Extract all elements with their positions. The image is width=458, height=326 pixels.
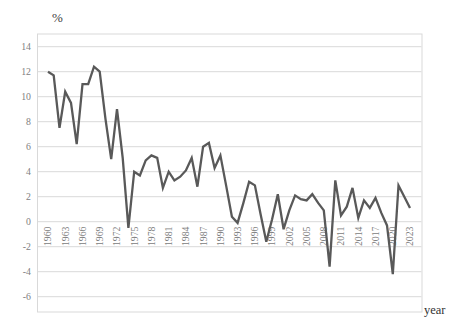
- x-axis-title: year: [424, 303, 446, 318]
- x-tick-label: 1975: [129, 226, 140, 246]
- chart-container: % 14121086420-2-4-6196019631966196919721…: [0, 0, 458, 326]
- x-tick-label: 2023: [404, 226, 415, 246]
- x-tick-label: 1984: [180, 226, 191, 246]
- x-tick-label: 2014: [353, 226, 364, 246]
- x-tick-label: 1981: [163, 226, 174, 246]
- x-tick-label: 2017: [370, 226, 381, 246]
- y-tick-label: 2: [26, 191, 31, 202]
- x-tick-label: 2002: [284, 226, 295, 246]
- x-tick-label: 1969: [94, 226, 105, 246]
- y-tick-label: -4: [23, 266, 31, 277]
- x-tick-label: 1963: [60, 226, 71, 246]
- y-tick-label: 12: [21, 66, 31, 77]
- y-tick-label: 14: [21, 41, 31, 52]
- line-chart-plot: 14121086420-2-4-619601963196619691972197…: [0, 0, 458, 326]
- y-tick-label: -6: [23, 291, 31, 302]
- y-tick-label: -2: [23, 241, 31, 252]
- x-tick-label: 2005: [301, 226, 312, 246]
- x-tick-label: 1987: [198, 226, 209, 246]
- y-tick-label: 8: [26, 116, 31, 127]
- x-tick-label: 1996: [249, 226, 260, 246]
- x-tick-label: 1993: [232, 226, 243, 246]
- plot-border: [38, 34, 423, 312]
- x-tick-label: 1990: [215, 226, 226, 246]
- y-tick-label: 10: [21, 91, 31, 102]
- y-tick-label: 0: [26, 216, 31, 227]
- y-tick-label: 6: [26, 141, 31, 152]
- x-tick-label: 2011: [335, 226, 346, 245]
- y-tick-label: 4: [26, 166, 31, 177]
- x-tick-label: 1966: [77, 226, 88, 246]
- x-tick-label: 1960: [42, 226, 53, 246]
- x-tick-label: 1978: [146, 226, 157, 246]
- x-tick-label: 1972: [111, 226, 122, 246]
